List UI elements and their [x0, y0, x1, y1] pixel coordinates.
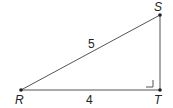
vertex-label-S: S [154, 0, 162, 14]
vertex-label-R: R [15, 93, 24, 107]
right-angle-marker [146, 80, 153, 87]
side-RS [21, 15, 160, 90]
vertex-T-point [158, 88, 162, 92]
side-label-RT: 4 [86, 93, 93, 107]
vertex-R-point [19, 88, 23, 92]
side-label-RS: 5 [88, 37, 95, 51]
vertex-label-T: T [154, 93, 163, 107]
triangle-diagram: R S T 5 4 [0, 0, 173, 108]
